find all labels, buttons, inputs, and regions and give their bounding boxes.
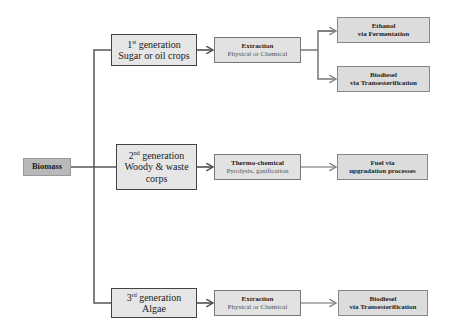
gen1-process-node: Extraction Physical or Chemical <box>214 37 301 63</box>
gen2-node: 2nd generation Woody & waste corps <box>116 144 197 190</box>
gen1-output-ethanol: Ethanol via Fermentation <box>337 17 430 43</box>
gen2-output-fuel: Fuel via upgradation processes <box>337 154 428 180</box>
gen3-title: 3rd generation <box>127 292 182 304</box>
gen3-node: 3rd generation Algae <box>111 288 197 318</box>
gen1-output-biodiesel: Biodiesel via Transesterification <box>337 66 430 92</box>
gen2-feedstock: Woody & waste corps <box>122 161 192 184</box>
gen3-process-title: Extraction <box>242 295 274 303</box>
gen3-output-biodiesel: Biodiesel via Transesterification <box>338 290 428 316</box>
gen3-process-subtitle: Physical or Chemical <box>228 303 288 311</box>
gen2-title: 2nd generation <box>129 150 185 162</box>
gen1-feedstock: Sugar or oil crops <box>118 50 189 62</box>
biomass-label: Biomass <box>32 162 62 172</box>
gen1-process-subtitle: Physical or Chemical <box>228 50 288 58</box>
gen2-process-title: Thermo-chemical <box>231 159 284 167</box>
gen2-process-subtitle: Pyrolysis, gasification <box>226 167 288 175</box>
gen1-node: 1st generation Sugar or oil crops <box>111 34 197 66</box>
gen3-feedstock: Algae <box>142 303 166 315</box>
gen2-process-node: Thermo-chemical Pyrolysis, gasification <box>214 154 301 180</box>
gen3-process-node: Extraction Physical or Chemical <box>214 290 301 316</box>
biomass-node: Biomass <box>23 158 71 176</box>
gen1-title: 1st generation <box>127 39 181 51</box>
gen1-process-title: Extraction <box>242 42 274 50</box>
